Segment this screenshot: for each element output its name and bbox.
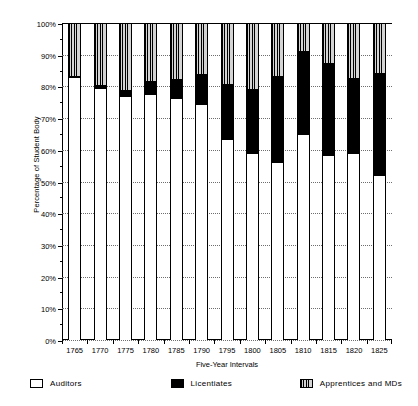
bar-segment-apprentices: [196, 23, 207, 75]
bar-segment-auditors: [171, 98, 182, 341]
chart-legend: Auditors Licentiates Apprentices and MDs: [30, 379, 402, 388]
x-tick-label-1815: 1815: [320, 346, 337, 355]
stacked-bar[interactable]: [144, 23, 157, 340]
bar-segment-auditors: [298, 134, 309, 340]
bar-segment-apprentices: [222, 23, 233, 85]
x-tick-mark: [341, 340, 342, 344]
bar-segment-apprentices: [171, 23, 182, 80]
bar-segment-licentiates: [374, 74, 385, 175]
stacked-bar[interactable]: [119, 23, 132, 340]
x-tick-label-1800: 1800: [244, 346, 261, 355]
bar-segment-apprentices: [120, 23, 131, 91]
bars-layer: 1765177017751780178517901795180018051810…: [62, 23, 392, 340]
bar-group-1775[interactable]: 1775: [113, 23, 138, 340]
y-tick-label: 10%: [41, 305, 56, 314]
x-tick-label-1775: 1775: [117, 346, 134, 355]
x-tick-mark: [189, 340, 190, 344]
bar-group-1780[interactable]: 1780: [138, 23, 163, 340]
legend-label-licentiates: Licentiates: [191, 379, 233, 388]
x-tick-mark: [214, 340, 215, 344]
legend-swatch-apprentices-icon: [300, 379, 313, 388]
bar-group-1810[interactable]: 1810: [291, 23, 316, 340]
bar-group-1825[interactable]: 1825: [367, 23, 392, 340]
bar-segment-auditors: [222, 139, 233, 340]
bar-segment-apprentices: [247, 23, 258, 90]
bar-segment-auditors: [120, 96, 131, 340]
bar-segment-apprentices: [272, 23, 283, 77]
y-tick-label: 80%: [41, 83, 56, 92]
bar-segment-auditors: [145, 94, 156, 340]
bar-group-1765[interactable]: 1765: [62, 23, 87, 340]
x-tick-label-1790: 1790: [193, 346, 210, 355]
bar-segment-licentiates: [145, 82, 156, 95]
x-tick-label-1795: 1795: [219, 346, 236, 355]
stacked-bar[interactable]: [68, 23, 81, 340]
x-tick-label-1825: 1825: [371, 346, 388, 355]
bar-segment-apprentices: [298, 23, 309, 52]
bar-group-1805[interactable]: 1805: [265, 23, 290, 340]
x-tick-mark: [87, 340, 88, 344]
legend-item-auditors: Auditors: [30, 379, 171, 388]
bar-segment-licentiates: [298, 52, 309, 134]
bar-segment-auditors: [348, 153, 359, 340]
gridline-0%: 0%: [62, 340, 392, 341]
bar-group-1815[interactable]: 1815: [316, 23, 341, 340]
stacked-bar[interactable]: [373, 23, 386, 340]
x-tick-mark: [240, 340, 241, 344]
x-tick-label-1770: 1770: [92, 346, 109, 355]
x-tick-mark: [62, 340, 63, 344]
y-tick-label: 70%: [41, 115, 56, 124]
x-tick-mark: [367, 340, 368, 344]
y-tick-label: 30%: [41, 241, 56, 250]
bar-segment-apprentices: [69, 23, 80, 77]
bar-segment-licentiates: [348, 79, 359, 153]
bar-group-1785[interactable]: 1785: [164, 23, 189, 340]
bar-group-1820[interactable]: 1820: [341, 23, 366, 340]
bar-segment-apprentices: [95, 23, 106, 86]
bar-segment-auditors: [95, 88, 106, 340]
y-axis-title: Percentage of Student Body: [32, 65, 41, 265]
bar-segment-licentiates: [247, 90, 258, 153]
bar-segment-auditors: [69, 77, 80, 340]
bar-group-1770[interactable]: 1770: [87, 23, 112, 340]
x-tick-mark: [164, 340, 165, 344]
bar-segment-auditors: [374, 175, 385, 340]
x-tick-label-1810: 1810: [295, 346, 312, 355]
stacked-bar[interactable]: [246, 23, 259, 340]
x-axis-title: Five-Year Intervals: [62, 360, 392, 369]
stacked-bar[interactable]: [322, 23, 335, 340]
y-tick-label: 20%: [41, 273, 56, 282]
legend-swatch-licentiates-icon: [171, 379, 184, 388]
bar-segment-apprentices: [145, 23, 156, 82]
x-tick-label-1785: 1785: [168, 346, 185, 355]
stacked-bar[interactable]: [170, 23, 183, 340]
bar-segment-licentiates: [196, 75, 207, 104]
stacked-bar[interactable]: [297, 23, 310, 340]
stacked-bar[interactable]: [347, 23, 360, 340]
stacked-bar[interactable]: [94, 23, 107, 340]
bar-group-1795[interactable]: 1795: [214, 23, 239, 340]
bar-segment-apprentices: [323, 23, 334, 64]
bar-group-1790[interactable]: 1790: [189, 23, 214, 340]
x-tick-mark: [316, 340, 317, 344]
x-tick-mark: [138, 340, 139, 344]
bar-segment-auditors: [272, 162, 283, 340]
bar-segment-licentiates: [272, 77, 283, 163]
stacked-bar-chart: Percentage of Student Body 0%10%20%30%40…: [0, 0, 418, 406]
legend-swatch-auditors-icon: [30, 379, 43, 388]
y-tick-label: 50%: [41, 178, 56, 187]
bar-group-1800[interactable]: 1800: [240, 23, 265, 340]
x-tick-label-1820: 1820: [346, 346, 363, 355]
x-tick-label-1780: 1780: [143, 346, 160, 355]
stacked-bar[interactable]: [221, 23, 234, 340]
stacked-bar[interactable]: [195, 23, 208, 340]
bar-segment-apprentices: [374, 23, 385, 74]
plot-area: 0%10%20%30%40%50%60%70%80%90%100% 176517…: [62, 23, 392, 340]
y-tick-label: 90%: [41, 51, 56, 60]
bar-segment-apprentices: [348, 23, 359, 78]
x-tick-mark: [291, 340, 292, 344]
stacked-bar[interactable]: [271, 23, 284, 340]
x-tick-label-1805: 1805: [269, 346, 286, 355]
bar-segment-licentiates: [323, 64, 334, 154]
bar-segment-auditors: [323, 155, 334, 340]
